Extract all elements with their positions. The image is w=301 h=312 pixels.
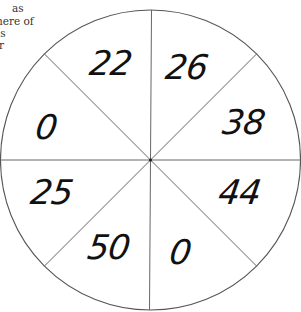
sector-number-left-lower: 25 [29, 175, 75, 209]
sector-number-right-upper: 38 [221, 105, 267, 139]
wheel-center [149, 158, 152, 161]
wheel-diagram [0, 0, 301, 312]
sector-number-bottom-left: 50 [86, 230, 132, 264]
sector-number-top-right: 26 [164, 50, 210, 84]
sector-number-top-left: 22 [88, 46, 134, 80]
sector-number-right-lower: 44 [217, 175, 263, 209]
